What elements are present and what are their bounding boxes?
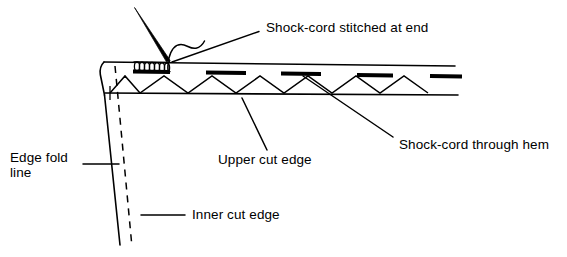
label-shock-cord-stitched-at-end: Shock-cord stitched at end	[266, 20, 428, 35]
leader-shock-cord-through-hem	[303, 76, 393, 137]
edge-fold-solid-line	[105, 95, 121, 245]
needle-pointer	[135, 8, 171, 63]
label-inner-cut-edge: Inner cut edge	[192, 207, 280, 222]
label-edge-fold-line: Edge fold line	[10, 150, 68, 180]
stitch-bar	[206, 73, 246, 74]
diagram-linework	[0, 0, 567, 257]
leader-upper-cut-edge	[242, 98, 267, 150]
zigzag-basting-stitch	[110, 76, 428, 93]
dashed-stitch-bars	[133, 72, 462, 77]
diagram-canvas: Shock-cord stitched at end Shock-cord th…	[0, 0, 567, 257]
leader-shock-cord-stitched	[172, 32, 259, 63]
thread-curve	[169, 41, 205, 59]
hem-lower-stitch-line	[105, 93, 458, 95]
stitch-bar	[281, 74, 321, 75]
label-shock-cord-through-hem: Shock-cord through hem	[399, 137, 549, 152]
stitch-bar	[357, 75, 393, 76]
corner-fold-curve	[100, 62, 104, 95]
label-upper-cut-edge: Upper cut edge	[218, 152, 312, 167]
stitch-bar	[430, 76, 462, 77]
